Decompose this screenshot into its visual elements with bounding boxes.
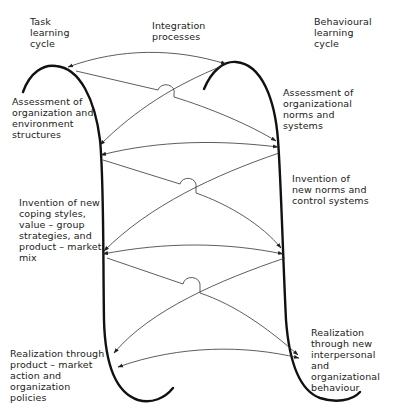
task-stage-assessment: Assessment of organization and environme… (12, 96, 94, 140)
integration-processes-header: Integration processes (152, 20, 205, 42)
behavioural-learning-cycle-header: Behavioural learning cycle (314, 16, 372, 49)
arrow-realization-arc (118, 349, 299, 367)
arrow-invention-arc (103, 245, 283, 254)
arrow-task-invention-to-behavioural-realization (107, 258, 298, 355)
behavioural-stage-realization: Realization through new interpersonal an… (311, 327, 400, 393)
arrow-top-arc (68, 52, 226, 67)
task-stage-invention: Invention of new coping styles, value – … (19, 197, 102, 263)
task-learning-cycle-header: Task learning cycle (30, 16, 70, 49)
task-stage-realization: Realization through product – market act… (10, 348, 104, 403)
behavioural-stage-invention: Invention of new norms and control syste… (292, 173, 369, 206)
arrow-behavioural-top-to-task-assessment (100, 66, 222, 145)
behavioural-stage-assessment: Assessment of organizational norms and s… (283, 87, 353, 131)
arrow-behavioural-assessment-to-task-invention (104, 153, 279, 251)
arrow-assessment-arc (101, 142, 278, 155)
arrow-behavioural-invention-to-task-realization (114, 258, 285, 353)
arrow-task-assessment-to-behavioural-invention (103, 160, 281, 248)
arrow-task-top-to-behavioural-assessment (76, 71, 276, 141)
